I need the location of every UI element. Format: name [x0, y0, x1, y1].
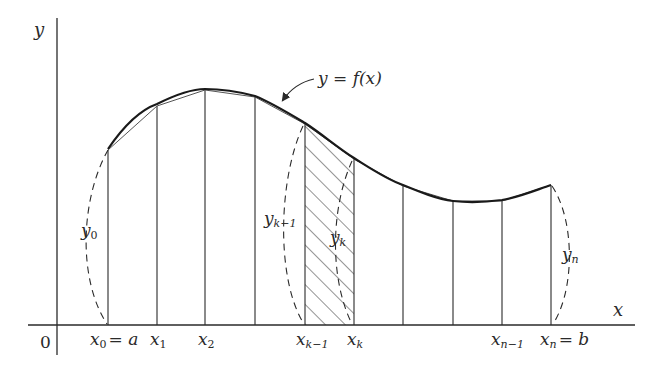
ordinate-label-yk-1: yk−1	[263, 208, 297, 230]
curve-label-leader	[283, 79, 314, 100]
tick-label-x0: x0= a	[90, 329, 138, 351]
x-axis-label: x	[613, 299, 623, 320]
tick-label-xk-1: xk−1	[296, 329, 328, 351]
tick-label-x2: x2	[198, 329, 215, 351]
tick-label-xk: xk	[347, 329, 364, 351]
ordinate-label-y0: y0	[80, 220, 98, 242]
riemann-sum-diagram: y x 0 y = f(x) x0= a x1 x2 xk−1 xk xn−1 …	[0, 0, 656, 370]
tick-label-xn-1: xn−1	[491, 329, 524, 351]
y-axis-label: y	[33, 19, 45, 40]
ordinate-label-yn: yn	[561, 244, 579, 266]
tick-label-xn: xn= b	[540, 329, 589, 351]
curve-label: y = f(x)	[317, 68, 382, 88]
origin-label: 0	[40, 332, 51, 352]
tick-label-x1: x1	[150, 329, 167, 351]
